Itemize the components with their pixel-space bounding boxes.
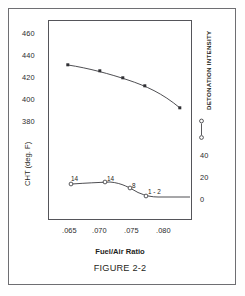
y-tick-label-400: 400: [22, 95, 35, 104]
y-tick-label-440: 440: [22, 51, 35, 60]
y2-tick-label-40: 40: [200, 151, 208, 160]
y2-tick-label-0: 0: [200, 195, 204, 204]
figure-caption: FIGURE 2-2: [48, 263, 192, 273]
figure-root: 460 440 420 400 380 CHT (deg. F) DETONAT…: [0, 0, 245, 296]
y-axis-title-right: DETONATION INTENSITY: [205, 31, 212, 110]
point-label-1-2: 1 - 2: [148, 188, 161, 195]
x-tick-label-080: .080: [156, 226, 171, 235]
y-axis-title-left: CHT (deg. F): [23, 142, 32, 186]
x-tick-label-070: .070: [92, 226, 107, 235]
plot-area-frame: [48, 20, 192, 220]
x-tick-label-065: .065: [62, 226, 77, 235]
point-label-14-b: 14: [107, 175, 114, 182]
y-tick-label-380: 380: [22, 117, 35, 126]
point-label-8: 8: [132, 182, 136, 189]
y2-tick-label-20: 20: [200, 173, 208, 182]
y-tick-label-420: 420: [22, 73, 35, 82]
x-axis-title: Fuel/Air Ratio: [48, 247, 192, 256]
x-tick-label-075: .075: [124, 226, 139, 235]
y-tick-label-460: 460: [22, 29, 35, 38]
point-label-14-a: 14: [71, 175, 78, 182]
